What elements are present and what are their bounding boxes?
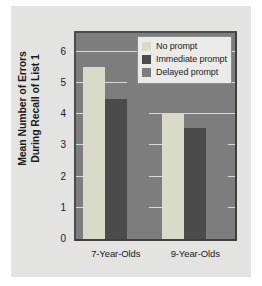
y-axis-tick-label: 5 xyxy=(52,78,66,88)
bar xyxy=(83,67,105,239)
legend-swatch-icon xyxy=(142,42,151,51)
y-axis-tick-label: 3 xyxy=(52,140,66,150)
y-axis-tick-label: 4 xyxy=(52,109,66,119)
bar xyxy=(127,70,149,239)
y-axis-title-line-1: Mean Number of Errors xyxy=(16,51,28,166)
legend-swatch-icon xyxy=(142,55,151,64)
legend-label: Immediate prompt xyxy=(156,54,227,64)
bar xyxy=(184,128,206,239)
bar xyxy=(206,136,228,239)
y-axis-title: Mean Number of Errors During Recall of L… xyxy=(16,34,41,184)
bar xyxy=(162,114,184,239)
y-axis-tick-label: 2 xyxy=(52,172,66,182)
y-axis-tick-label: 0 xyxy=(52,234,66,244)
y-axis-title-line-2: During Recall of List 1 xyxy=(28,34,41,184)
legend-label: Delayed prompt xyxy=(156,67,218,77)
legend-item: Delayed prompt xyxy=(142,66,227,78)
x-axis-tick-label: 7-Year-Olds xyxy=(76,248,156,259)
y-axis-tick-label: 1 xyxy=(52,203,66,213)
chart-figure: Mean Number of Errors During Recall of L… xyxy=(0,0,262,286)
legend-label: No prompt xyxy=(156,41,197,51)
legend-item: No prompt xyxy=(142,40,227,52)
bar xyxy=(105,99,127,239)
x-axis-tick-label: 9-Year-Olds xyxy=(155,248,235,259)
legend-swatch-icon xyxy=(142,68,151,77)
y-axis-tick-label: 6 xyxy=(52,47,66,57)
legend-item: Immediate prompt xyxy=(142,53,227,65)
chart-legend: No promptImmediate promptDelayed prompt xyxy=(137,36,232,84)
